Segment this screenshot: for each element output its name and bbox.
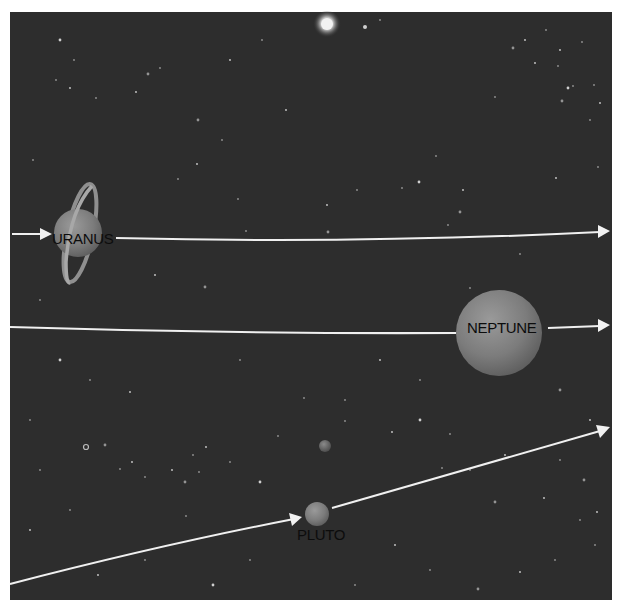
star: [449, 433, 451, 435]
planet-neptune: NEPTUNE: [456, 290, 542, 376]
star: [419, 379, 421, 381]
star: [177, 178, 179, 180]
star: [344, 420, 346, 422]
star: [589, 119, 591, 121]
star: [159, 67, 161, 69]
star: [154, 274, 156, 276]
star: [504, 454, 506, 456]
star: [326, 204, 328, 206]
star: [561, 100, 564, 103]
star: [554, 559, 556, 561]
outer-solar-system-diagram: URANUS NEPTUNE PLUTO: [0, 0, 621, 609]
pluto-label: PLUTO: [297, 526, 345, 543]
star: [69, 509, 71, 511]
star: [245, 230, 247, 232]
star: [59, 39, 62, 42]
star: [32, 159, 34, 161]
star: [29, 419, 31, 421]
star: [567, 87, 570, 90]
star: [144, 476, 146, 478]
star: [524, 39, 526, 41]
star: [89, 379, 91, 381]
star: [597, 166, 599, 168]
star: [55, 79, 57, 81]
star: [459, 211, 462, 214]
star: [379, 19, 381, 21]
star: [39, 469, 41, 471]
star: [59, 359, 62, 362]
star: [237, 198, 239, 200]
star: [147, 73, 150, 76]
star: [401, 187, 403, 189]
star: [583, 479, 586, 482]
star: [579, 519, 581, 521]
star: [545, 29, 547, 31]
small-moon: [319, 440, 331, 452]
star: [462, 189, 464, 191]
star: [144, 559, 146, 561]
star: [557, 65, 559, 67]
star: [73, 59, 75, 61]
star: [599, 102, 601, 104]
star: [29, 529, 31, 531]
star: [192, 454, 194, 456]
star: [354, 584, 356, 586]
star: [285, 109, 287, 111]
star: [441, 467, 443, 469]
star: [212, 584, 215, 587]
star: [205, 446, 207, 448]
star: [494, 501, 497, 504]
star: [447, 224, 449, 226]
star: [469, 287, 471, 289]
uranus-label: URANUS: [52, 230, 114, 247]
star: [559, 459, 561, 461]
star: [261, 39, 263, 41]
star: [131, 461, 133, 463]
star: [303, 397, 305, 399]
star: [418, 181, 421, 184]
star: [391, 431, 393, 433]
star: [135, 91, 137, 93]
star: [221, 139, 223, 141]
sun-core: [321, 18, 333, 30]
star: [356, 189, 358, 191]
star: [379, 359, 381, 361]
pluto-body: [305, 502, 329, 526]
star: [204, 286, 207, 289]
star: [229, 461, 231, 463]
star: [129, 391, 131, 393]
star: [519, 571, 521, 573]
star: [104, 444, 107, 447]
star: [581, 41, 583, 43]
bright-star: [363, 25, 367, 29]
star: [534, 62, 536, 64]
star: [555, 177, 557, 179]
star: [196, 163, 198, 165]
star: [69, 87, 71, 89]
star: [277, 435, 279, 437]
star: [198, 471, 200, 473]
star: [327, 231, 330, 234]
star: [171, 469, 173, 471]
star: [185, 515, 187, 517]
star: [394, 544, 396, 546]
star: [559, 49, 561, 51]
star: [419, 419, 422, 422]
star: [435, 155, 437, 157]
star: [95, 97, 97, 99]
star: [559, 389, 562, 392]
star: [477, 588, 480, 591]
star: [593, 84, 595, 86]
star: [589, 419, 591, 421]
star: [572, 85, 574, 87]
star: [344, 399, 346, 401]
star: [596, 511, 598, 513]
star: [197, 119, 200, 122]
star: [39, 299, 41, 301]
star: [543, 497, 545, 499]
star: [229, 59, 231, 61]
star: [259, 481, 262, 484]
star: [512, 47, 515, 50]
star: [429, 569, 431, 571]
star: [594, 544, 596, 546]
